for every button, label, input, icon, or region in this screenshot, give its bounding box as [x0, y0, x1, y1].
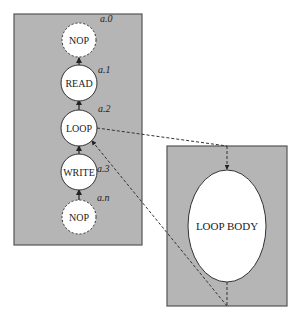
node-an-text: NOP: [69, 212, 89, 223]
node-a3-text: WRITE: [63, 167, 95, 178]
loop-body-node: LOOP BODY: [188, 170, 266, 282]
node-an-label: a.n: [97, 192, 110, 203]
node-a2-label: a.2: [98, 103, 111, 114]
node-a0-text: NOP: [69, 35, 89, 46]
loop-structure-diagram: NOP a.0 READ a.1 LOOP a.2 WRITE a.3 NOP …: [0, 0, 303, 323]
loop-body-text: LOOP BODY: [196, 220, 258, 232]
node-a2-text: LOOP: [66, 123, 93, 134]
node-a1-label: a.1: [98, 64, 111, 75]
node-a1-text: READ: [65, 78, 92, 89]
node-a0-label: a.0: [100, 13, 113, 24]
node-a3-label: a.3: [97, 163, 110, 174]
